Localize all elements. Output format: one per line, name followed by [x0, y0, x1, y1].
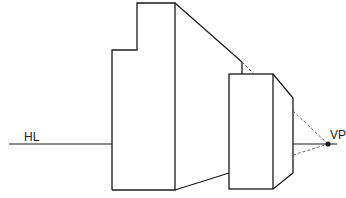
stepped-block-receding-top: [175, 3, 242, 74]
stepped-block-receding-bottom: [175, 173, 229, 190]
vanishing-point-label: VP: [330, 128, 346, 142]
construction-line-bottom: [293, 144, 328, 155]
construction-line-upper-hidden: [242, 62, 254, 74]
vanishing-point-dot: [325, 141, 330, 146]
stepped-block-front: [112, 3, 175, 190]
perspective-diagram: HL VP: [0, 0, 346, 198]
small-block-receding-side: [273, 74, 293, 189]
horizon-line-label: HL: [24, 130, 40, 144]
small-block-front: [229, 74, 273, 189]
construction-line-top: [293, 111, 328, 144]
